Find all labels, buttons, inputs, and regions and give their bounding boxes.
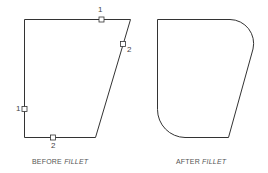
- after-fillet-shape: [158, 20, 254, 138]
- label-left-1: 1: [16, 105, 20, 113]
- label-top-1: 1: [98, 6, 102, 14]
- before-fillet-shape: [25, 20, 131, 138]
- pick-marker-top-1: [99, 17, 104, 22]
- pick-marker-left-1: [22, 107, 27, 112]
- label-bottom-2: 2: [51, 142, 55, 150]
- before-caption-text: BEFORE: [32, 158, 64, 165]
- fillet-diagram: [0, 0, 268, 173]
- after-caption-text: AFTER: [176, 158, 202, 165]
- after-caption: AFTER FILLET: [176, 158, 226, 165]
- pick-marker-slant-2: [121, 42, 126, 47]
- after-caption-command: FILLET: [202, 158, 226, 165]
- label-slant-2: 2: [127, 46, 131, 54]
- pick-marker-bottom-2: [51, 135, 56, 140]
- before-caption: BEFORE FILLET: [32, 158, 88, 165]
- before-caption-command: FILLET: [64, 158, 88, 165]
